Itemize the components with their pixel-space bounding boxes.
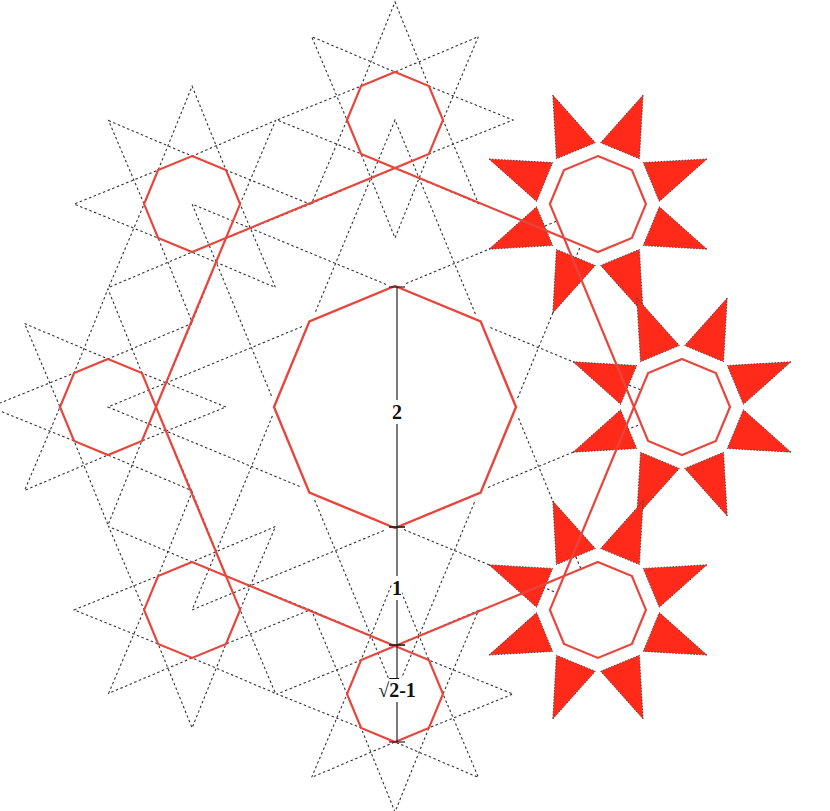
connector-edge-5: [156, 407, 226, 576]
star-ray-upper-right-5: [489, 159, 553, 202]
measure-label-2: 2: [392, 400, 402, 424]
dotted-star-outlines: [0, 2, 682, 811]
small-octagon-upper-right: [550, 156, 646, 252]
star-ray-lower-right-2: [489, 613, 553, 656]
star-ray-upper-right-7: [601, 95, 644, 159]
radical-sign: √: [378, 679, 389, 701]
star-ray-right-4: [573, 362, 637, 405]
star-ray-lower-right-6: [643, 565, 707, 608]
connector-left-top: [108, 120, 395, 407]
star-ray-upper-right-1: [643, 207, 707, 250]
star-ray-upper-right-3: [553, 249, 596, 313]
star-ray-lower-right-7: [643, 613, 707, 656]
radicand: 2: [389, 678, 399, 701]
star-ray-lower-right-4: [553, 501, 596, 565]
measurement-lines: [389, 287, 405, 742]
star-ray-lower-right-1: [553, 655, 596, 719]
star-ray-right-3: [573, 410, 637, 453]
star-ray-right-0: [727, 410, 791, 453]
small-octagon-right: [634, 359, 730, 455]
star-ray-right-7: [727, 362, 791, 405]
star-ray-right-6: [685, 298, 728, 362]
measure-label-sqrt2-minus-1: √2-1: [378, 678, 416, 702]
small-octagon-lower-right: [550, 562, 646, 658]
star-ray-upper-right-4: [489, 207, 553, 250]
connector-bottom-left: [108, 407, 395, 694]
measure-label-1-text: 1: [392, 577, 402, 599]
star-ray-lower-right-3: [489, 565, 553, 608]
measure-label-1: 1: [392, 576, 402, 600]
measure-label-2-text: 2: [392, 401, 402, 423]
star-ray-right-1: [685, 452, 728, 516]
label-suffix: -1: [399, 679, 416, 701]
star-ray-right-5: [637, 298, 680, 362]
star-ray-lower-right-0: [601, 655, 644, 719]
star-ray-upper-right-2: [601, 249, 644, 313]
star-ray-upper-right-0: [643, 159, 707, 202]
star-ray-lower-right-5: [601, 501, 644, 565]
star-ray-right-2: [637, 452, 680, 516]
connector-edge-7: [226, 168, 395, 238]
star-ray-upper-right-6: [553, 95, 596, 159]
